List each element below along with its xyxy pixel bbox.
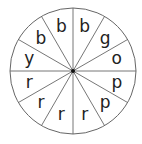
sector-label: r — [58, 104, 65, 124]
sector-label: p — [111, 72, 122, 92]
sector-label: y — [24, 48, 34, 68]
sector-label: r — [81, 104, 88, 124]
sector-label: b — [36, 28, 47, 48]
sector-label: r — [26, 72, 33, 92]
sector-label: o — [112, 48, 122, 68]
sector-label: r — [37, 92, 44, 112]
sector-label: b — [79, 16, 90, 36]
spinner-wheel: bgopprrrrybb — [0, 0, 142, 144]
center-dot — [71, 69, 75, 73]
sector-label: g — [100, 28, 111, 48]
sector-label: p — [100, 92, 111, 112]
sector-label: b — [56, 16, 67, 36]
